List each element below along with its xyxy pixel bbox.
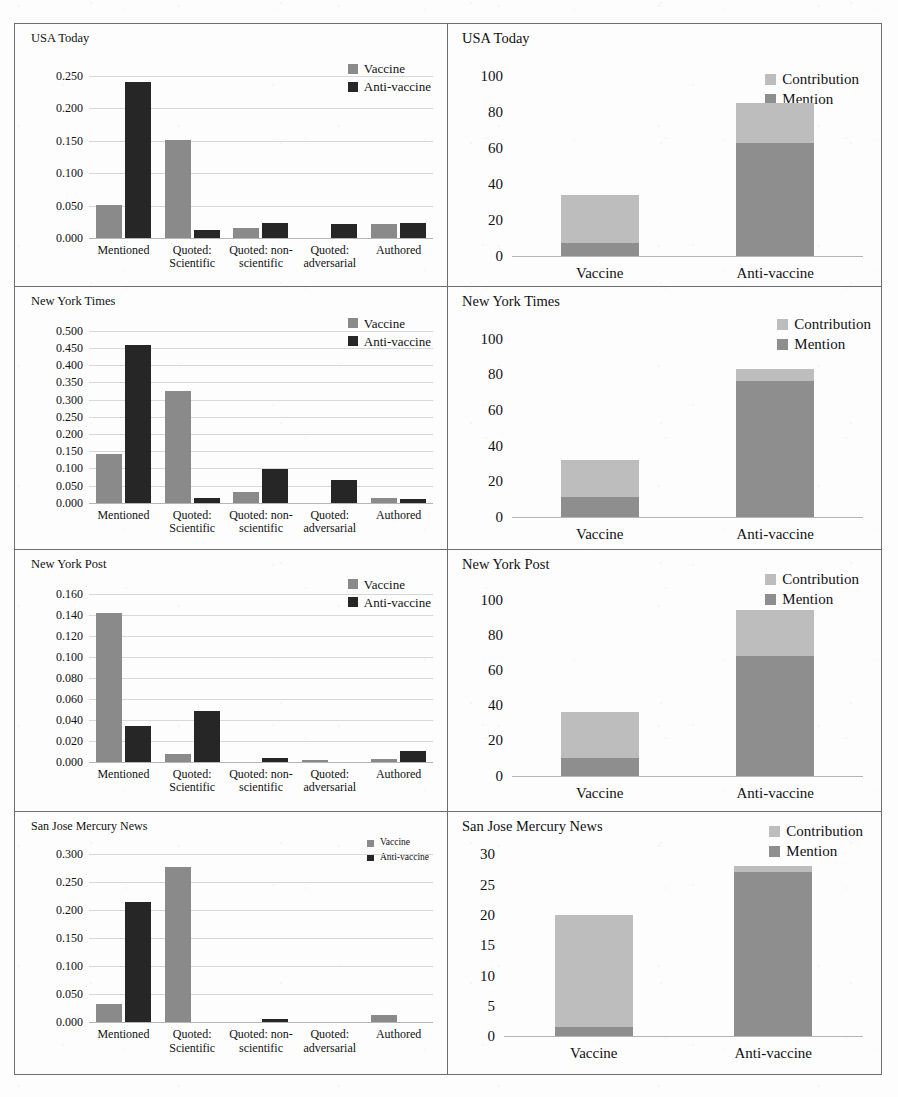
y-axis-tick-label: 0.050 [56, 198, 89, 213]
panel-title: New York Post [31, 557, 106, 572]
x-axis-tick-label: Quoted:adversarial [295, 768, 364, 795]
panel-san-jose-right: San Jose Mercury News Contribution Menti… [448, 812, 881, 1074]
x-axis-tick-label: Anti-vaccine [688, 785, 864, 802]
x-axis-tick-label-line: Authored [364, 244, 433, 257]
x-axis-tick-label-line: Quoted: [158, 244, 227, 257]
bar-group [89, 331, 158, 503]
x-axis-tick-label-line: Quoted: [158, 1028, 227, 1041]
stacked-bar [561, 195, 639, 256]
chart-row-usa-today: USA Today Vaccine Anti-vaccine 0.0000.05… [15, 24, 881, 287]
chart-row-new-york-post: New York Post Vaccine Anti-vaccine 0.000… [15, 550, 881, 813]
bar-segment-mention [734, 872, 812, 1036]
figure-page: USA Today Vaccine Anti-vaccine 0.0000.05… [0, 0, 898, 1097]
bar-group [227, 76, 296, 238]
legend-item-contribution: Contribution [769, 824, 863, 839]
x-axis-tick-label-line: Quoted: non- [227, 768, 296, 781]
y-axis-tick-label: 5 [488, 997, 505, 1014]
panel-new-york-post-left: New York Post Vaccine Anti-vaccine 0.000… [15, 550, 448, 812]
bar-group [512, 76, 688, 256]
bar-anti-vaccine [194, 498, 220, 503]
bar-vaccine [233, 492, 259, 502]
x-axis-tick-label-line: Scientific [158, 1042, 227, 1055]
y-axis-tick-label: 0.400 [56, 358, 89, 373]
x-axis-tick-label: Quoted: non-scientific [227, 1028, 296, 1055]
chart-row-new-york-times: New York Times Vaccine Anti-vaccine 0.00… [15, 287, 881, 550]
panel-usa-today-right: USA Today Contribution Mention 020406080… [448, 24, 881, 286]
y-axis-tick-label: 0.050 [56, 987, 89, 1002]
bar-vaccine [302, 760, 328, 761]
x-axis-tick-label-line: Mentioned [89, 1028, 158, 1041]
gridline [89, 762, 433, 763]
x-axis-tick-label: Authored [364, 509, 433, 536]
bar-anti-vaccine [262, 758, 288, 761]
bar-segment-contrib [736, 610, 814, 656]
x-axis-tick-label-line: Mentioned [89, 244, 158, 257]
x-axis-tick-label-line: scientific [227, 522, 296, 535]
stacked-bar [555, 915, 633, 1036]
x-axis-tick-label: Mentioned [89, 768, 158, 795]
bar-group [295, 594, 364, 762]
bars-container [89, 76, 433, 238]
bar-group [364, 76, 433, 238]
plot-area: 020406080100VaccineAnti-vaccine [512, 339, 863, 517]
x-axis-tick-label-line: Quoted: [295, 768, 364, 781]
y-axis-tick-label: 0.050 [56, 478, 89, 493]
y-axis-tick-label: 60 [488, 661, 512, 678]
y-axis-tick-label: 30 [480, 846, 504, 863]
panel-san-jose-left: San Jose Mercury News Vaccine Anti-vacci… [15, 812, 448, 1074]
bar-anti-vaccine [331, 224, 357, 238]
bar-vaccine [96, 205, 122, 238]
x-axis-tick-label-line: Authored [364, 1028, 433, 1041]
x-axis-labels: VaccineAnti-vaccine [512, 526, 863, 543]
x-axis-tick-label-line: scientific [227, 257, 296, 270]
bar-segment-contrib [561, 195, 639, 244]
y-axis-tick-label: 40 [488, 697, 512, 714]
x-axis-tick-label-line: Scientific [158, 257, 227, 270]
gridline [512, 256, 863, 257]
bar-segment-mention [555, 1027, 633, 1036]
legend-swatch-vaccine [348, 64, 358, 74]
panel-title: New York Post [462, 556, 549, 573]
legend-swatch-contribution [765, 574, 776, 585]
bar-segment-mention [736, 143, 814, 256]
bar-anti-vaccine [125, 902, 151, 1022]
x-axis-tick-label-line [364, 257, 433, 258]
bar-group [512, 339, 688, 517]
y-axis-tick-label: 0.200 [56, 101, 89, 116]
bars-container [512, 600, 863, 776]
y-axis-tick-label: 60 [488, 140, 512, 157]
x-axis-labels: MentionedQuoted:ScientificQuoted: non-sc… [89, 244, 433, 271]
bar-anti-vaccine [331, 480, 357, 502]
y-axis-tick-label: 20 [480, 906, 504, 923]
x-axis-tick-label-line: Quoted: non- [227, 1028, 296, 1041]
bar-group [364, 594, 433, 762]
bar-group [158, 76, 227, 238]
bar-vaccine [165, 867, 191, 1022]
x-axis-tick-label-line: scientific [227, 781, 296, 794]
x-axis-tick-label: Quoted: non-scientific [227, 768, 296, 795]
y-axis-tick-label: 0 [496, 248, 513, 265]
panel-title: San Jose Mercury News [462, 818, 603, 835]
x-axis-tick-label: Quoted: non-scientific [227, 244, 296, 271]
bar-vaccine [371, 224, 397, 238]
legend-item-vaccine: Vaccine [367, 838, 429, 848]
bar-group [295, 854, 364, 1022]
bar-segment-mention [561, 758, 639, 776]
gridline [504, 1036, 863, 1037]
bar-vaccine [96, 613, 122, 761]
gridline [512, 776, 863, 777]
bar-vaccine [165, 754, 191, 761]
x-axis-tick-label: Quoted:Scientific [158, 1028, 227, 1055]
x-axis-tick-label-line [364, 1042, 433, 1043]
bar-group [227, 594, 296, 762]
bar-vaccine [165, 140, 191, 238]
x-axis-tick-label: Authored [364, 768, 433, 795]
bar-vaccine [96, 454, 122, 503]
x-axis-tick-label-line: Scientific [158, 781, 227, 794]
x-axis-tick-label-line: Quoted: [158, 509, 227, 522]
x-axis-tick-label: Vaccine [512, 265, 688, 282]
x-axis-tick-label-line [89, 522, 158, 523]
panel-new-york-times-left: New York Times Vaccine Anti-vaccine 0.00… [15, 287, 448, 549]
bar-anti-vaccine [125, 82, 151, 238]
y-axis-tick-label: 25 [480, 876, 504, 893]
